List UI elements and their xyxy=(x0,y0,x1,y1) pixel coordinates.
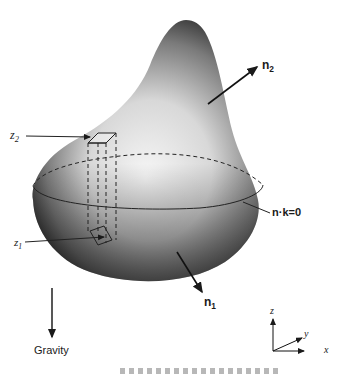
coordinate-axes xyxy=(273,319,304,351)
pear-surface xyxy=(33,20,259,281)
gravity-label: Gravity xyxy=(34,344,69,356)
n1-label: n1 xyxy=(204,295,216,311)
z1-label: z1 xyxy=(14,236,22,251)
axis-x-label: x xyxy=(324,344,328,355)
n2-label: n2 xyxy=(262,58,274,74)
axis-z-label: z xyxy=(270,305,274,316)
caption-fragment xyxy=(120,368,280,374)
pear-body-diagram xyxy=(0,0,342,375)
axis-y-label: y xyxy=(304,328,308,339)
z2-label: z2 xyxy=(10,128,19,144)
z2-leader xyxy=(26,136,90,137)
nk-label: n·k=0 xyxy=(272,206,301,218)
